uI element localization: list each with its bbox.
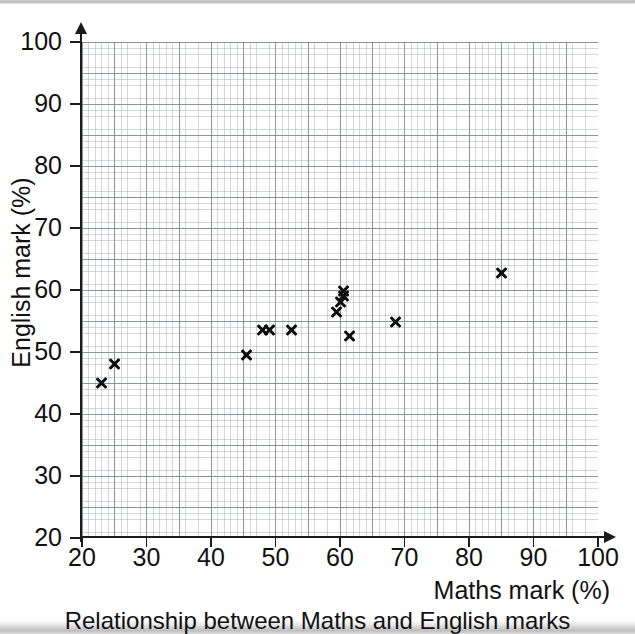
scan-artifact-top [0,0,635,4]
plot-area [82,42,598,538]
x-tick-label: 60 [310,545,370,570]
x-tick-label: 80 [439,545,499,570]
x-tick-label: 40 [181,545,241,570]
y-tick-label: 100 [0,29,62,54]
y-axis-label: English mark (%) [7,148,36,398]
y-axis-line [80,30,82,542]
y-tick-label: 30 [0,463,62,488]
y-tick-label: 90 [0,91,62,116]
chart-caption: Relationship between Maths and English m… [0,607,635,634]
y-tick [70,227,82,229]
x-axis-label: Maths mark (%) [330,576,610,605]
x-tick-label: 100 [568,545,628,570]
x-tick-label: 70 [375,545,435,570]
y-tick [70,351,82,353]
x-tick-label: 20 [52,545,112,570]
y-axis-arrow-icon [75,22,87,34]
x-tick-label: 30 [117,545,177,570]
grid-tint [82,42,598,538]
y-tick [70,103,82,105]
y-tick [70,165,82,167]
x-axis-arrow-icon [604,531,616,543]
x-tick-label: 50 [246,545,306,570]
y-tick [70,413,82,415]
y-tick-label: 40 [0,401,62,426]
y-tick [70,475,82,477]
y-tick [70,41,82,43]
y-tick [70,289,82,291]
scatter-plot-figure: 2030405060708090100 2030405060708090100 … [0,0,635,634]
x-tick-label: 90 [504,545,564,570]
